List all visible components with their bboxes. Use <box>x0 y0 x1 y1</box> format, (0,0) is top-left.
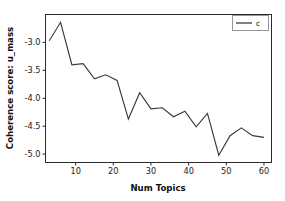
x-tick-label: 30 <box>146 166 156 176</box>
y-tick-label: -4.0 <box>25 93 41 103</box>
legend: c <box>233 16 269 31</box>
axes-frame <box>46 15 272 163</box>
y-axis-ticks: -3.0-3.5-4.0-4.5-5.0 <box>25 37 46 159</box>
y-tick-label: -3.0 <box>25 37 41 47</box>
y-tick-label: -3.5 <box>25 65 41 75</box>
chart-canvas: -3.0-3.5-4.0-4.5-5.0 102030405060 Num To… <box>0 0 285 201</box>
x-tick-label: 20 <box>108 166 118 176</box>
y-axis-title: Coherence score: u_mass <box>5 27 15 149</box>
x-tick-label: 50 <box>221 166 231 176</box>
line-series-c <box>49 22 264 155</box>
legend-label-c: c <box>256 19 260 28</box>
x-tick-label: 40 <box>183 166 193 176</box>
figure-container: -3.0-3.5-4.0-4.5-5.0 102030405060 Num To… <box>0 0 285 201</box>
x-tick-label: 10 <box>70 166 80 176</box>
x-tick-label: 60 <box>259 166 269 176</box>
x-axis-ticks: 102030405060 <box>70 163 269 177</box>
x-axis-title: Num Topics <box>130 183 185 193</box>
y-tick-label: -5.0 <box>25 149 41 159</box>
y-tick-label: -4.5 <box>25 121 41 131</box>
